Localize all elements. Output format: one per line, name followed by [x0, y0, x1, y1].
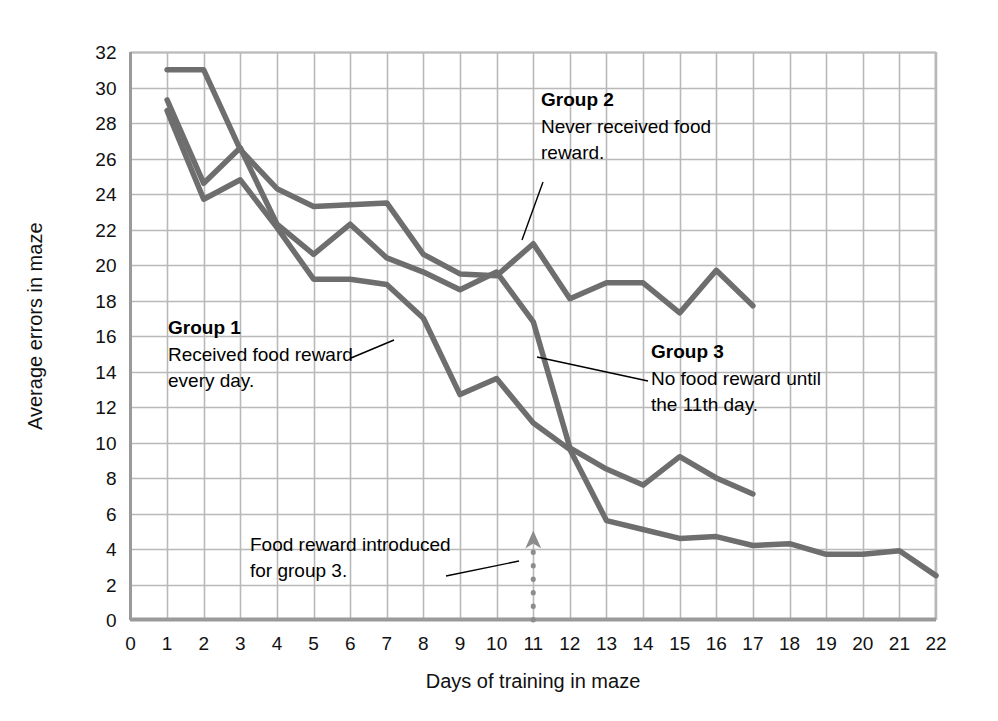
x-tick-label: 21	[889, 633, 910, 654]
annotation-line: No food reward until	[651, 368, 821, 389]
x-tick-label: 7	[382, 633, 393, 654]
y-tick-label: 2	[106, 575, 117, 596]
annotation-heading: Group 1	[168, 317, 241, 338]
x-tick-label: 19	[816, 633, 837, 654]
x-tick-label: 4	[272, 633, 283, 654]
x-tick-label: 12	[559, 633, 580, 654]
x-tick-label: 16	[706, 633, 727, 654]
x-tick-label: 8	[418, 633, 429, 654]
y-tick-label: 6	[106, 504, 117, 525]
line-chart: 02468101214161820222426283032 0123456789…	[0, 0, 998, 721]
annotation-heading: Group 3	[651, 341, 724, 362]
x-tick-label: 13	[596, 633, 617, 654]
chart-background	[0, 0, 998, 721]
y-tick-label: 0	[106, 610, 117, 631]
x-tick-label: 17	[742, 633, 763, 654]
x-axis-title: Days of training in maze	[426, 670, 641, 692]
x-tick-label: 15	[669, 633, 690, 654]
y-tick-label: 14	[95, 362, 117, 383]
annotation-line: every day.	[168, 370, 254, 391]
y-axis-title: Average errors in maze	[24, 223, 46, 431]
chart-figure: 02468101214161820222426283032 0123456789…	[0, 0, 998, 721]
y-tick-label: 22	[95, 220, 116, 241]
y-tick-label: 12	[95, 397, 116, 418]
y-tick-label: 10	[95, 433, 116, 454]
x-tick-label: 2	[198, 633, 209, 654]
annotation-line: reward.	[541, 142, 604, 163]
annotation-line: Received food reward	[168, 344, 353, 365]
x-tick-label: 0	[125, 633, 136, 654]
x-tick-label: 11	[523, 633, 543, 654]
y-tick-label: 4	[106, 539, 117, 560]
y-tick-label: 16	[95, 326, 116, 347]
y-tick-label: 8	[106, 468, 117, 489]
x-tick-label: 20	[852, 633, 873, 654]
x-tick-label: 1	[162, 633, 173, 654]
y-tick-label: 32	[95, 42, 116, 63]
x-tick-label: 3	[235, 633, 246, 654]
annotation-heading: Group 2	[541, 89, 614, 110]
annotation-line: Food reward introduced	[250, 534, 451, 555]
x-tick-label: 18	[779, 633, 800, 654]
y-tick-label: 28	[95, 113, 116, 134]
x-tick-label: 22	[925, 633, 946, 654]
x-tick-label: 9	[455, 633, 466, 654]
y-tick-label: 18	[95, 291, 116, 312]
y-tick-label: 30	[95, 78, 116, 99]
y-tick-label: 26	[95, 149, 116, 170]
x-tick-label: 10	[486, 633, 507, 654]
annotation-line: for group 3.	[250, 560, 347, 581]
annotation-line: Never received food	[541, 116, 711, 137]
x-tick-label: 5	[308, 633, 319, 654]
y-tick-label: 24	[95, 184, 117, 205]
x-tick-label: 14	[633, 633, 655, 654]
y-tick-label: 20	[95, 255, 116, 276]
x-tick-label: 6	[345, 633, 356, 654]
annotation-line: the 11th day.	[651, 394, 758, 415]
